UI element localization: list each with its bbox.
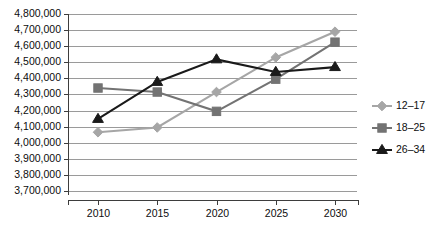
chart-canvas: 4,800,0004,700,0004,600,0004,500,0004,40… [0,0,435,236]
data-point-square-marker [153,88,161,96]
y-axis-tick-label: 4,600,000 [14,39,61,51]
y-axis-tick-label: 4,700,000 [14,23,61,35]
data-point-square-marker [272,75,280,83]
y-axis-tick-label: 4,300,000 [14,87,61,99]
x-axis-tick-label: 2030 [324,207,348,219]
data-point-square-marker [94,84,102,92]
legend-square-marker [378,124,386,132]
data-point-square-marker [331,38,339,46]
legend-label: 12–17 [396,99,425,111]
y-axis-tick-label: 4,100,000 [14,120,61,132]
legend-label: 26–34 [396,143,425,155]
y-axis-tick-label: 4,200,000 [14,104,61,116]
data-point-square-marker [212,107,220,115]
y-axis-tick-label: 4,000,000 [14,136,61,148]
y-axis-tick-label: 4,400,000 [14,71,61,83]
x-axis-tick-label: 2015 [146,207,170,219]
chart-legend: 12–1718–2526–34 [372,99,425,155]
y-axis-tick-label: 3,700,000 [14,184,61,196]
y-axis-tick-label: 3,900,000 [14,152,61,164]
x-axis-tick-label: 2020 [206,207,230,219]
legend-label: 18–25 [396,121,425,133]
line-chart-figure: 4,800,0004,700,0004,600,0004,500,0004,40… [0,0,435,236]
x-axis-tick-label: 2010 [87,207,111,219]
y-axis-tick-label: 4,500,000 [14,55,61,67]
y-axis-tick-label: 3,800,000 [14,168,61,180]
x-axis-tick-label: 2025 [265,207,289,219]
y-axis-tick-label: 4,800,000 [14,7,61,19]
